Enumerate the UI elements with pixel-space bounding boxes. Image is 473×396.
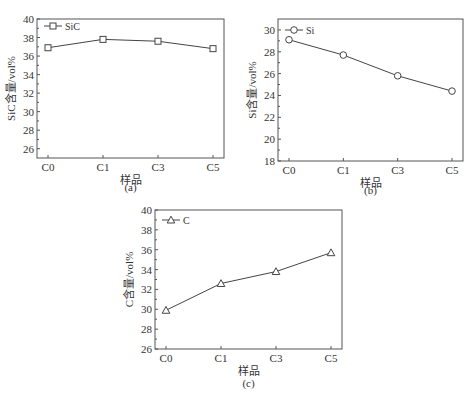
- data-point: [340, 52, 347, 59]
- y-tick-label: 20: [264, 133, 276, 145]
- panel-caption: (b): [364, 184, 377, 197]
- y-tick-label: 32: [23, 87, 34, 99]
- x-tick-label: C3: [152, 161, 165, 173]
- data-point: [449, 88, 456, 95]
- x-tick-label: C5: [325, 352, 338, 364]
- y-tick-label: 28: [23, 124, 35, 136]
- figure: 2628303234363840C0C1C3C5样品(a)SiC含量/vol%S…: [0, 0, 473, 396]
- y-tick-label: 36: [23, 50, 35, 62]
- data-point: [210, 46, 216, 52]
- x-tick-label: C0: [160, 352, 173, 364]
- y-tick-label: 40: [141, 204, 153, 216]
- x-tick-label: C0: [283, 164, 296, 176]
- y-tick-label: 34: [23, 69, 35, 81]
- data-point: [327, 249, 335, 256]
- legend-label: C: [183, 215, 190, 226]
- series-line-sic: [48, 39, 213, 48]
- data-point: [394, 73, 401, 80]
- y-tick-label: 38: [141, 224, 153, 236]
- y-tick-label: 22: [264, 111, 275, 123]
- data-point: [286, 36, 293, 43]
- y-tick-label: 26: [264, 68, 276, 80]
- y-axis-label: SiC含量/vol%: [4, 56, 17, 121]
- legend: Si: [285, 25, 315, 36]
- legend: C: [162, 215, 190, 226]
- data-point: [155, 38, 161, 44]
- y-axis-label: Si含量/vol%: [245, 61, 258, 118]
- legend-label: Si: [306, 25, 315, 36]
- data-point: [100, 36, 106, 42]
- y-tick-label: 38: [23, 32, 35, 44]
- x-tick-label: C3: [270, 352, 283, 364]
- y-tick-label: 26: [23, 143, 35, 155]
- series-line-c: [166, 253, 331, 311]
- y-tick-label: 28: [264, 46, 276, 58]
- y-tick-label: 36: [141, 244, 153, 256]
- y-tick-label: 28: [141, 323, 153, 335]
- y-tick-label: 30: [264, 24, 276, 36]
- y-tick-label: 30: [23, 106, 35, 118]
- x-tick-label: C3: [391, 164, 404, 176]
- legend-marker-icon: [50, 23, 56, 29]
- y-tick-label: 24: [264, 89, 276, 101]
- y-axis-label: C含量/vol%: [122, 252, 135, 308]
- plot-frame: [278, 19, 463, 161]
- data-point: [45, 45, 51, 51]
- panel-caption: (a): [124, 181, 137, 194]
- y-tick-label: 34: [141, 264, 153, 276]
- legend-label: SiC: [65, 21, 80, 32]
- chart-panel-b: 18202224262830C0C1C3C5样品(b)Si含量/vol%Si: [245, 19, 463, 197]
- y-tick-label: 30: [141, 303, 153, 315]
- x-axis-label: 样品: [238, 364, 260, 377]
- legend-marker-icon: [291, 27, 298, 34]
- x-tick-label: C1: [97, 161, 110, 173]
- y-tick-label: 26: [141, 343, 153, 355]
- x-tick-label: C1: [215, 352, 228, 364]
- x-tick-label: C0: [42, 161, 55, 173]
- data-point: [162, 306, 170, 313]
- y-tick-label: 32: [141, 283, 152, 295]
- x-tick-label: C1: [337, 164, 350, 176]
- y-tick-label: 18: [264, 155, 276, 167]
- chart-panel-c: 2628303234363840C0C1C3C5样品(c)C含量/vol%C: [122, 204, 342, 390]
- plot-frame: [155, 210, 342, 349]
- series-line-si: [289, 40, 452, 91]
- y-tick-label: 40: [23, 13, 35, 25]
- x-tick-label: C5: [207, 161, 220, 173]
- x-tick-label: C5: [446, 164, 459, 176]
- chart-panel-a: 2628303234363840C0C1C3C5样品(a)SiC含量/vol%S…: [4, 13, 224, 194]
- legend: SiC: [44, 21, 80, 32]
- panel-caption: (c): [242, 377, 255, 390]
